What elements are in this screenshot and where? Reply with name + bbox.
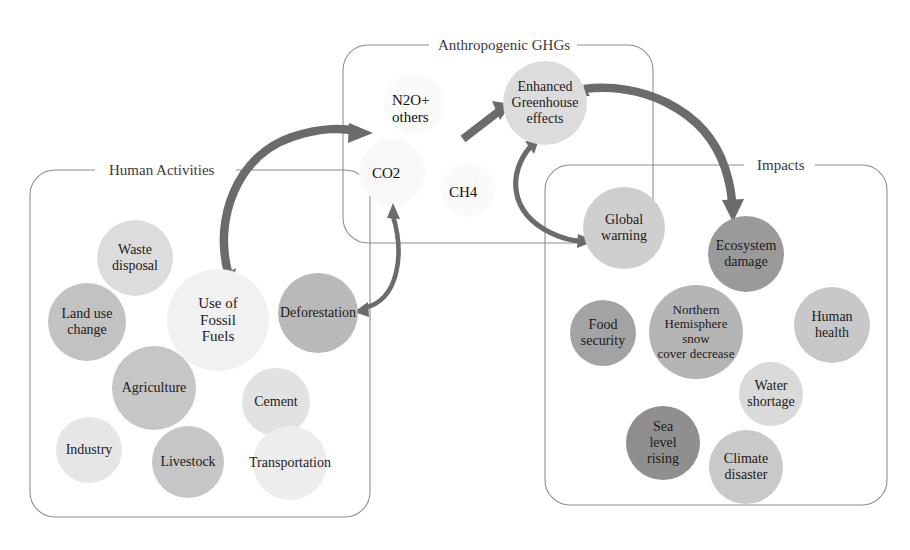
bubble-land-use-change[interactable]: Land use change	[48, 283, 126, 361]
arrowhead-co2	[387, 203, 400, 219]
bubble-label: Cement	[251, 394, 301, 410]
diagram-canvas: Human Activities Anthropogenic GHGs Impa…	[0, 0, 910, 550]
bubble-sea-level-rising[interactable]: Sea level rising	[626, 406, 700, 480]
bubble-label: Global warning	[598, 212, 650, 243]
bubble-global-warming[interactable]: Global warning	[583, 187, 665, 269]
arrow-enhanced-to-global-warming	[516, 146, 581, 241]
arrow-ghgs-to-enhanced	[463, 112, 498, 139]
bubble-label: Food security	[578, 317, 628, 348]
bubble-label: Climate disaster	[721, 451, 771, 482]
bubble-label: Industry	[63, 442, 116, 458]
bubble-human-health[interactable]: Human health	[794, 287, 870, 363]
group-label-impacts: Impacts	[750, 158, 811, 173]
bubble-northern-snow-cover[interactable]: Northern Hemisphere snow cover decrease	[649, 285, 743, 379]
bubble-food-security[interactable]: Food security	[570, 300, 636, 366]
bubble-ecosystem-damage[interactable]: Ecosystem damage	[708, 216, 784, 292]
bubble-livestock[interactable]: Livestock	[152, 426, 224, 498]
arrow-deforestation-co2	[364, 216, 398, 308]
arrowhead-fossil-fuels	[348, 123, 373, 143]
bubble-label: Agriculture	[119, 380, 190, 396]
bubble-cement[interactable]: Cement	[242, 368, 310, 436]
bubble-label: Northern Hemisphere snow cover decrease	[649, 303, 743, 361]
bubble-agriculture[interactable]: Agriculture	[112, 346, 196, 430]
bubble-deforestation[interactable]: Deforestation	[278, 273, 358, 353]
bubble-label: Enhanced Greenhouse effects	[509, 79, 582, 126]
group-label-human-activities: Human Activities	[102, 163, 221, 178]
arrow-fossil-fuels-to-ghgs	[224, 129, 355, 272]
bubble-transportation[interactable]: Transportation	[253, 426, 327, 500]
bubble-label: Sea level rising	[644, 419, 682, 466]
bubble-label: Deforestation	[277, 305, 359, 321]
bubble-label: Water shortage	[744, 378, 797, 409]
bubble-label: Livestock	[157, 454, 218, 470]
group-label-anthropogenic-ghgs: Anthropogenic GHGs	[431, 38, 577, 53]
gas-label-n2o-others: N2O+ others	[392, 92, 430, 127]
bubble-use-fossil-fuels[interactable]: Use of Fossil Fuels	[167, 269, 269, 371]
bubble-enhanced-greenhouse-effects[interactable]: Enhanced Greenhouse effects	[503, 61, 587, 145]
bubble-waste-disposal[interactable]: Waste disposal	[97, 220, 173, 296]
bubble-water-shortage[interactable]: Water shortage	[739, 362, 803, 426]
bubble-label: Land use change	[59, 306, 116, 337]
gas-label-ch4: CH4	[449, 184, 477, 201]
bubble-label: Human health	[808, 309, 855, 340]
bubble-label: Waste disposal	[109, 242, 161, 273]
bubble-climate-disaster[interactable]: Climate disaster	[709, 430, 783, 504]
bubble-label: Transportation	[246, 455, 334, 471]
arrow-enhanced-to-impacts	[584, 88, 732, 206]
bubble-industry[interactable]: Industry	[56, 417, 122, 483]
bubble-label: Ecosystem damage	[713, 238, 780, 269]
gas-label-co2: CO2	[372, 165, 400, 182]
bubble-label: Use of Fossil Fuels	[195, 295, 241, 345]
